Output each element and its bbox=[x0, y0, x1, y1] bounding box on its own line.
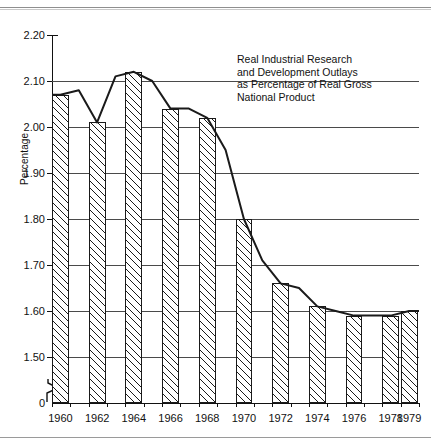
x-tick bbox=[162, 403, 163, 407]
x-tick bbox=[291, 403, 292, 407]
x-tick bbox=[107, 403, 108, 407]
x-tick-label: 1972 bbox=[268, 412, 292, 424]
y-tick-label: 0 bbox=[39, 398, 45, 409]
x-tick bbox=[364, 403, 365, 407]
x-tick bbox=[419, 403, 420, 407]
chart-figure: 2.202.102.001.901.801.701.601.500 196019… bbox=[0, 0, 431, 443]
x-tick-label: 1964 bbox=[122, 412, 146, 424]
x-tick bbox=[309, 403, 310, 407]
x-tick bbox=[199, 403, 200, 407]
x-tick bbox=[89, 403, 90, 407]
x-tick-label: 1976 bbox=[342, 412, 366, 424]
page-rule-top bbox=[0, 7, 431, 8]
y-tick-label: 2.20 bbox=[24, 30, 45, 41]
x-tick-label: 1970 bbox=[232, 412, 256, 424]
y-tick-label: 1.70 bbox=[24, 260, 45, 271]
x-tick bbox=[346, 403, 347, 407]
x-tick bbox=[382, 403, 383, 407]
x-tick-label: 1966 bbox=[158, 412, 182, 424]
y-tick-label: 1.80 bbox=[24, 214, 45, 225]
y-axis-title: Percentage bbox=[19, 65, 30, 185]
x-tick-label: 1962 bbox=[85, 412, 109, 424]
y-tick-label: 1.50 bbox=[24, 352, 45, 363]
x-tick bbox=[254, 403, 255, 407]
x-tick bbox=[52, 403, 53, 407]
page-rule-top-secondary bbox=[0, 9, 431, 10]
x-tick-label: 1960 bbox=[48, 412, 72, 424]
y-tick-label: 1.60 bbox=[24, 306, 45, 317]
x-tick bbox=[217, 403, 218, 407]
x-tick bbox=[401, 403, 402, 407]
x-tick bbox=[125, 403, 126, 407]
page-rule-bottom bbox=[0, 437, 431, 438]
x-tick-label: 1974 bbox=[305, 412, 329, 424]
x-tick-label: 1979 bbox=[397, 412, 421, 424]
x-tick bbox=[180, 403, 181, 407]
x-tick-label: 1968 bbox=[195, 412, 219, 424]
x-tick bbox=[272, 403, 273, 407]
x-tick bbox=[144, 403, 145, 407]
x-tick bbox=[236, 403, 237, 407]
x-tick bbox=[70, 403, 71, 407]
x-tick bbox=[327, 403, 328, 407]
chart-annotation: Real Industrial Research and Development… bbox=[237, 53, 372, 103]
